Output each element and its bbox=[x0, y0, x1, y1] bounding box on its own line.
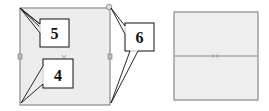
right-frame[interactable] bbox=[174, 12, 258, 100]
callout-6-label: 6 bbox=[136, 29, 144, 46]
left-resize-handle[interactable] bbox=[18, 54, 22, 59]
callout-6: 6 bbox=[111, 8, 154, 103]
callout-5-label: 5 bbox=[51, 25, 59, 42]
callout-4-label: 4 bbox=[54, 67, 62, 84]
rotate-handle[interactable] bbox=[106, 4, 112, 10]
right-resize-handle[interactable] bbox=[108, 54, 112, 59]
